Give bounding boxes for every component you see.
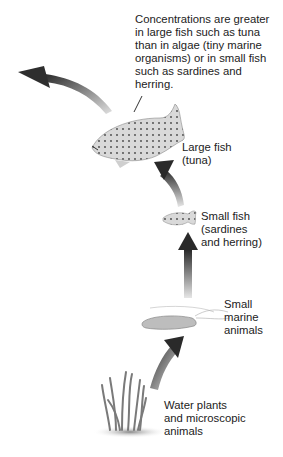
small-fish-icon	[163, 211, 196, 225]
annotation-text: Concentrations are greater in large fish…	[135, 13, 269, 91]
arrow-shrimp-to-small-fish-icon	[178, 232, 198, 298]
leader-line	[134, 96, 142, 112]
arrow-plants-to-shrimp-icon	[150, 336, 184, 390]
shrimp-icon	[142, 306, 230, 329]
arrow-small-fish-to-large-fish-icon	[154, 160, 184, 207]
arrow-out-icon	[18, 66, 112, 114]
label-small-marine-animals: Small marine animals	[224, 298, 263, 337]
label-small-fish: Small fish (sardines and herring)	[201, 210, 262, 249]
label-large-fish: Large fish (tuna)	[182, 141, 232, 167]
label-water-plants: Water plants and microscopic animals	[164, 399, 246, 438]
